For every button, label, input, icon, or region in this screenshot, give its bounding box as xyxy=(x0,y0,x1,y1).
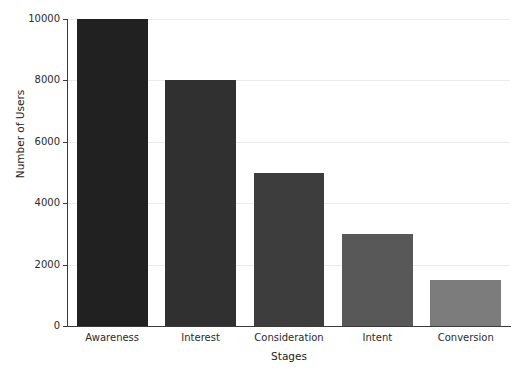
y-axis-title: Number of Users xyxy=(14,69,26,199)
y-tick-label: 6000 xyxy=(35,137,60,147)
plot-area xyxy=(68,19,510,326)
bar xyxy=(430,280,501,326)
y-tick-mark xyxy=(63,19,67,20)
bar xyxy=(342,234,413,326)
y-tick-mark xyxy=(63,326,67,327)
y-tick-label: 4000 xyxy=(35,198,60,208)
y-tick-mark xyxy=(63,142,67,143)
bar xyxy=(165,80,236,326)
x-tick-label: Intent xyxy=(333,332,421,343)
y-tick-label: 2000 xyxy=(35,260,60,270)
y-tick-label: 8000 xyxy=(35,75,60,85)
bar xyxy=(254,173,325,327)
x-axis-spine xyxy=(67,326,511,327)
y-tick-mark xyxy=(63,203,67,204)
x-axis-title: Stages xyxy=(68,350,510,362)
x-tick-label: Interest xyxy=(156,332,244,343)
funnel-bar-chart-figure: 0200040006000800010000 AwarenessInterest… xyxy=(0,0,521,378)
y-tick-label: 10000 xyxy=(28,14,60,24)
y-axis-spine xyxy=(67,19,68,327)
y-tick-label: 0 xyxy=(54,321,60,331)
x-tick-label: Conversion xyxy=(422,332,510,343)
y-tick-mark xyxy=(63,265,67,266)
x-tick-label: Consideration xyxy=(245,332,333,343)
bar xyxy=(77,19,148,326)
y-tick-mark xyxy=(63,80,67,81)
x-tick-label: Awareness xyxy=(68,332,156,343)
